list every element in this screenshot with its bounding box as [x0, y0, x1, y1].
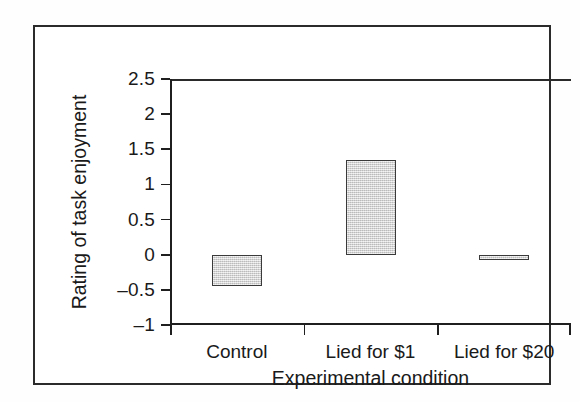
x-axis-line — [170, 323, 571, 325]
y-tick-label: 0 — [144, 243, 155, 265]
x-tick — [569, 325, 571, 335]
category-label: Lied for $20 — [437, 341, 571, 363]
y-tick: 2.5 — [161, 78, 170, 80]
x-tick — [304, 325, 306, 335]
category-label: Lied for $1 — [304, 341, 438, 363]
y-tick: 0.5 — [161, 219, 170, 221]
x-axis-title: Experimental condition — [170, 367, 571, 390]
bar-lied-for-1 — [346, 160, 396, 255]
x-tick — [170, 325, 172, 335]
y-axis-line — [170, 79, 172, 325]
y-tick-label: 1 — [144, 173, 155, 195]
x-tick — [437, 325, 439, 335]
category-label: Control — [170, 341, 304, 363]
y-tick-label: 0.5 — [128, 208, 155, 230]
bar-control — [212, 255, 262, 287]
y-tick: 0 — [161, 254, 170, 256]
y-tick-label: 2 — [144, 103, 155, 125]
figure-border: 2.521.510.50–0.5–1 ControlLied for $1Lie… — [33, 25, 551, 385]
y-tick-label: –1 — [133, 314, 155, 336]
plot-area: 2.521.510.50–0.5–1 ControlLied for $1Lie… — [170, 79, 571, 325]
y-axis-title: Rating of task enjoyment — [68, 95, 91, 310]
zero-baseline — [170, 79, 571, 81]
y-tick-label: –0.5 — [117, 278, 155, 300]
figure-canvas: 2.521.510.50–0.5–1 ControlLied for $1Lie… — [0, 0, 580, 402]
y-tick: 1 — [161, 184, 170, 186]
y-tick: –1 — [161, 324, 170, 326]
y-tick-label: 2.5 — [128, 68, 155, 90]
y-tick-label: 1.5 — [128, 138, 155, 160]
bar-lied-for-20 — [479, 255, 529, 260]
y-tick: –0.5 — [161, 289, 170, 291]
y-tick: 1.5 — [161, 148, 170, 150]
y-tick: 2 — [161, 113, 170, 115]
